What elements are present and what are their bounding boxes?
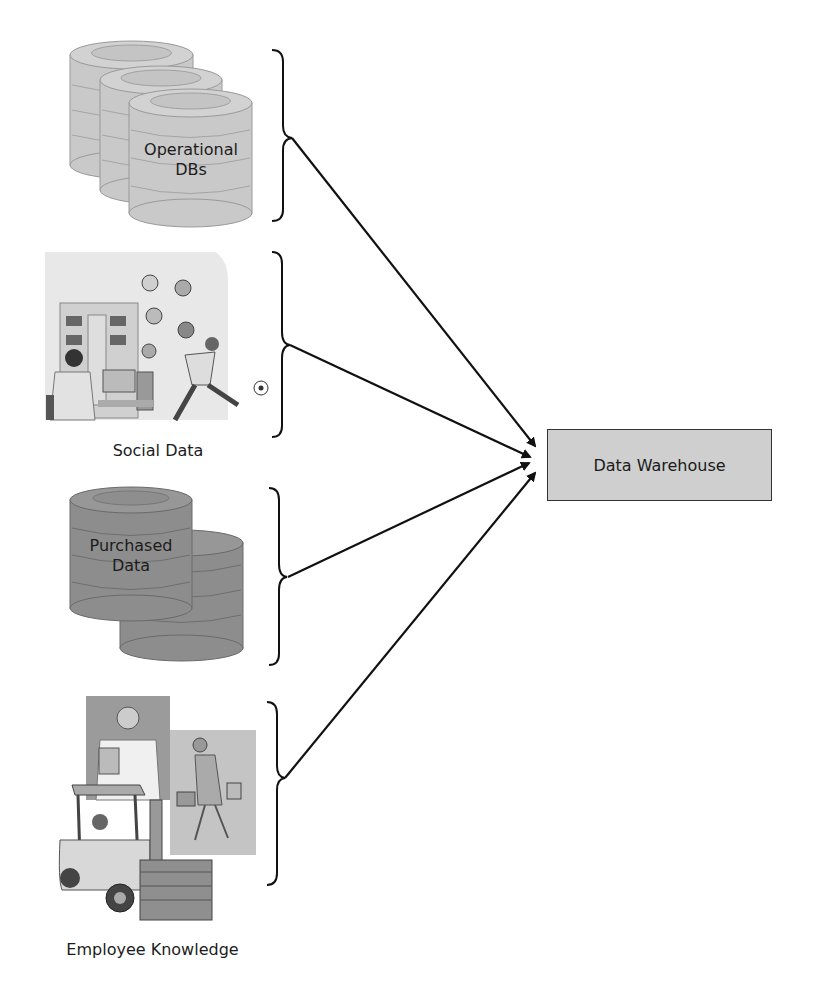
arrow-social xyxy=(290,345,530,457)
arrow-purchased xyxy=(288,463,529,577)
brace-social xyxy=(272,252,290,437)
purchased-data-line1: Purchased xyxy=(71,536,191,556)
brace-employee xyxy=(267,702,285,885)
purchased-data-label: Purchased Data xyxy=(71,536,191,576)
purchased-data-line2: Data xyxy=(71,556,191,576)
employee-knowledge-label: Employee Knowledge xyxy=(40,940,265,959)
brace-purchased xyxy=(269,488,287,665)
arrow-operational xyxy=(292,138,535,446)
operational-dbs-line2: DBs xyxy=(131,160,251,180)
braces xyxy=(267,50,292,885)
operational-dbs-line1: Operational xyxy=(131,140,251,160)
operational-dbs-icon xyxy=(70,41,252,227)
data-warehouse-box: Data Warehouse xyxy=(547,429,772,501)
social-data-illustration xyxy=(45,252,268,420)
operational-dbs-label: Operational DBs xyxy=(131,140,251,180)
data-warehouse-label: Data Warehouse xyxy=(593,456,725,475)
brace-operational xyxy=(272,50,292,221)
social-data-label: Social Data xyxy=(98,441,218,460)
employee-knowledge-illustration xyxy=(59,696,256,920)
arrows xyxy=(285,138,535,778)
